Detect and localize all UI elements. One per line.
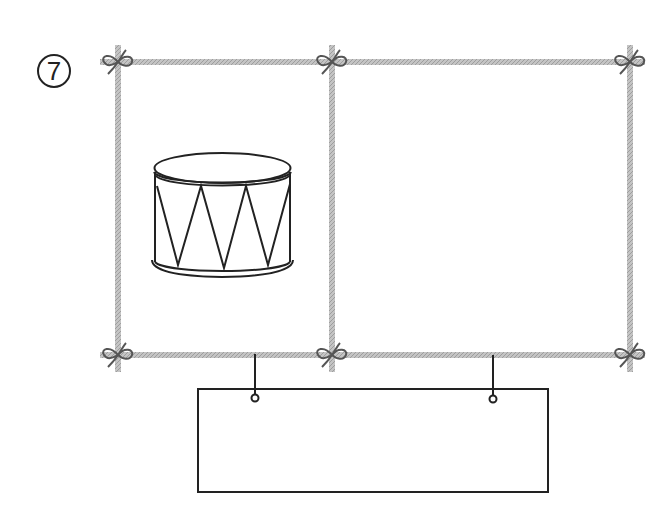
bottom-rope bbox=[100, 352, 645, 358]
answer-box[interactable] bbox=[198, 389, 548, 492]
picture-frame-board bbox=[0, 0, 666, 515]
drum-icon bbox=[152, 153, 293, 277]
rope-frame bbox=[100, 45, 645, 372]
top-rope bbox=[100, 59, 645, 65]
answer-box-hangers bbox=[252, 354, 497, 403]
middle-rope bbox=[329, 45, 335, 372]
knot-icons bbox=[103, 50, 644, 367]
left-rope bbox=[115, 45, 121, 372]
right-rope bbox=[627, 45, 633, 372]
